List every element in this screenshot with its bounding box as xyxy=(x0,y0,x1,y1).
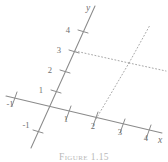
x-axis-label-2: 2 xyxy=(91,121,95,131)
guide-line-upper-right xyxy=(129,25,150,63)
y-axis-label-2: 2 xyxy=(48,65,52,75)
guide-line-from-x2 xyxy=(96,63,129,119)
y-axis-line xyxy=(31,6,95,148)
x-axis-label-4: 4 xyxy=(144,133,149,143)
x-axis-label-neg1: -1 xyxy=(6,99,13,109)
y-axis-label-neg1: -1 xyxy=(22,120,29,130)
y-axis-label-3: 3 xyxy=(57,45,61,55)
x-axis-name: x xyxy=(157,135,163,145)
figure-caption: Figure 1.15 xyxy=(0,151,168,162)
y-axis-name: y xyxy=(85,3,91,13)
x-axis-label-1: 1 xyxy=(64,114,68,124)
coordinate-plot: 4 3 2 1 -1 -1 1 2 3 4 y x xyxy=(0,0,168,162)
figure-container: 4 3 2 1 -1 -1 1 2 3 4 y x Figure 1.15 xyxy=(0,0,168,162)
y-axis-label-1: 1 xyxy=(39,85,43,95)
guide-line-from-y3 xyxy=(75,51,129,63)
guide-line-right xyxy=(129,63,166,71)
x-axis-label-3: 3 xyxy=(118,127,122,137)
y-axis-label-4: 4 xyxy=(66,25,71,35)
